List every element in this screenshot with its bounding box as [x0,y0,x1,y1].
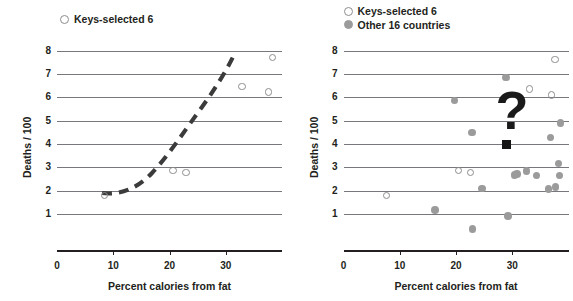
x-tick-mark [226,250,227,255]
trend-curve [57,45,282,230]
y-tick-label: 6 [37,92,51,102]
x-axis-title: Percent calories from fat [57,281,282,292]
y-tick-label: 5 [324,116,338,126]
y-tick-label: 6 [324,92,338,102]
data-point [383,192,390,199]
y-tick-label: 4 [324,139,338,149]
x-tick-label: 10 [101,261,125,271]
y-tick-label: 7 [37,69,51,79]
data-point [469,225,477,233]
data-point [552,183,560,191]
y-tick-label: 7 [324,69,338,79]
x-tick-label: 10 [388,261,412,271]
x-axis-title: Percent calories from fat [344,281,569,292]
panel-right: Keys-selected 6 Other 16 countries Death… [287,0,573,301]
gridline-5 [344,121,569,122]
figure-panels: Keys-selected 6 Deaths / 100 8 7 6 5 4 3… [0,0,573,301]
gridline-8 [344,51,569,52]
filled-circle-icon [344,20,353,29]
legend-label: Keys-selected 6 [74,14,153,25]
legend-right: Keys-selected 6 Other 16 countries [344,6,573,30]
y-tick-label: 3 [324,162,338,172]
x-tick-label: 30 [500,261,524,271]
y-tick-label: 1 [37,209,51,219]
legend-item: Other 16 countries [344,20,573,31]
open-circle-icon [344,7,353,16]
x-tick-label: 30 [214,261,238,271]
data-point [504,212,512,220]
x-tick-mark [170,250,171,255]
data-point [182,169,189,176]
gridline-7 [344,74,569,75]
data-point [169,167,176,174]
legend-label: Other 16 countries [358,20,451,31]
y-tick-label: 3 [37,162,51,172]
y-tick-label: 2 [324,186,338,196]
open-circle-icon [60,15,69,24]
plot-area-right: 8 7 6 5 4 3 2 1 [344,45,569,230]
data-point [533,172,541,180]
y-tick-label: 1 [324,209,338,219]
data-point [455,167,462,174]
x-tick-label: 20 [158,261,182,271]
data-point [551,56,558,63]
x-tick-mark [113,250,114,255]
y-tick-label: 5 [37,116,51,126]
data-point [523,167,531,175]
data-point [548,91,555,98]
question-mark-annotation: ? [496,83,529,137]
legend-item: Keys-selected 6 [344,6,573,17]
x-tick-label: 0 [332,261,356,271]
x-tick-label: 0 [45,261,69,271]
gridline-2 [344,191,569,192]
data-point [468,129,476,137]
gridline-1 [344,214,569,215]
y-axis-title: Deaths / 100 [309,117,320,178]
y-tick-label: 4 [37,139,51,149]
data-point [557,119,565,127]
y-tick-label: 2 [37,186,51,196]
data-point [265,88,272,95]
x-tick-mark [456,250,457,255]
data-point [513,170,521,178]
data-point [101,192,108,199]
y-tick-label: 8 [37,46,51,56]
data-point [431,206,439,214]
y-tick-label: 8 [324,46,338,56]
x-tick-label: 20 [444,261,468,271]
data-point [238,83,245,90]
data-point [451,97,459,105]
data-point [467,169,474,176]
data-point [556,172,564,180]
y-axis-title: Deaths / 100 [22,117,33,178]
gridline-4 [344,144,569,145]
plot-area-left: 8 7 6 5 4 3 2 1 0 10 2 [57,45,282,230]
x-tick-mark [400,250,401,255]
x-tick-mark [512,250,513,255]
unknown-data-marker [502,140,511,149]
data-point [478,185,486,193]
legend-label: Keys-selected 6 [358,6,437,17]
data-point [547,134,555,142]
panel-left: Keys-selected 6 Deaths / 100 8 7 6 5 4 3… [0,0,287,301]
